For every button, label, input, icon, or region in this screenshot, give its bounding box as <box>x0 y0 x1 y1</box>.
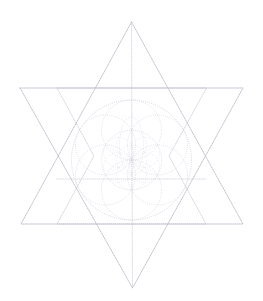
radial-spokes <box>106 130 158 190</box>
spoke-sw <box>106 160 132 175</box>
sacred-geometry-svg <box>0 0 263 301</box>
spoke-se <box>132 160 158 175</box>
vertical-axis <box>132 22 133 288</box>
petal-circle-se <box>130 153 160 183</box>
flower-of-life-group <box>72 100 192 220</box>
petal-circle-sw <box>104 153 134 183</box>
figure-canvas <box>0 0 263 301</box>
construction-axes <box>57 22 206 288</box>
